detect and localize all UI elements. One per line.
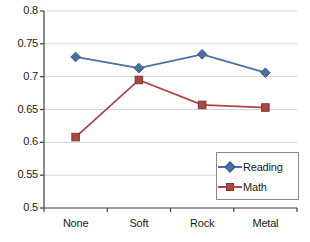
- y-tick-label: 0.75: [2, 37, 38, 49]
- x-tick-label: Rock: [172, 217, 232, 229]
- data-point-reading-none: [71, 52, 81, 62]
- data-point-reading-soft: [134, 63, 144, 73]
- y-tick-label: 0.8: [2, 4, 38, 16]
- series-markers: [71, 50, 270, 141]
- legend-item-reading: Reading: [217, 157, 300, 177]
- legend-swatch-reading: [217, 160, 243, 174]
- legend-label-math: Math: [243, 181, 267, 193]
- data-point-math-soft: [135, 76, 143, 84]
- y-tick-label: 0.65: [2, 103, 38, 115]
- y-tick-label: 0.5: [2, 201, 38, 213]
- x-tick-label: Soft: [109, 217, 169, 229]
- data-point-math-none: [72, 133, 80, 141]
- x-tick-label: None: [46, 217, 106, 229]
- y-tick-label: 0.7: [2, 70, 38, 82]
- data-point-reading-metal: [261, 68, 271, 78]
- data-point-reading-rock: [197, 50, 207, 60]
- data-point-math-metal: [262, 104, 270, 112]
- data-point-math-rock: [198, 101, 206, 109]
- legend-label-reading: Reading: [243, 161, 283, 173]
- y-tick-label: 0.55: [2, 168, 38, 180]
- legend: Reading Math: [216, 152, 299, 200]
- chart-canvas: [0, 0, 310, 242]
- line-chart: 0.80.750.70.650.60.550.5 NoneSoftRockMet…: [0, 0, 310, 242]
- series-line-math: [76, 80, 266, 137]
- legend-swatch-math: [217, 180, 243, 194]
- y-tick-label: 0.6: [2, 135, 38, 147]
- series-line-reading: [76, 54, 266, 72]
- x-tick-label: Metal: [235, 217, 295, 229]
- legend-item-math: Math: [217, 177, 300, 197]
- x-axis-ticks: [44, 208, 297, 212]
- series-lines: [76, 54, 266, 137]
